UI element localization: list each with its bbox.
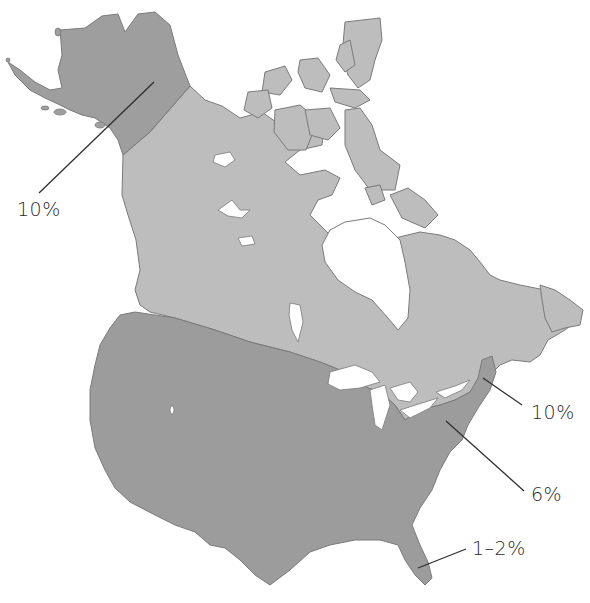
annotation-label-alaska: 10%: [17, 198, 61, 220]
annotation-label-new-england: 10%: [531, 401, 575, 423]
annotation-label-florida: 1–2%: [472, 537, 526, 559]
north-america-map: [0, 0, 590, 603]
leader-line-mid-atlantic: [446, 421, 524, 491]
annotation-label-mid-atlantic: 6%: [531, 483, 562, 505]
